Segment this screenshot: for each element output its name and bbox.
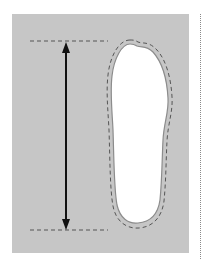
arrow-head-up-icon: [62, 42, 70, 53]
arrow-head-down-icon: [62, 219, 70, 230]
foot-measurement-diagram: [0, 0, 203, 265]
dotted-separator: [200, 14, 201, 259]
foot-outline: [111, 44, 168, 223]
